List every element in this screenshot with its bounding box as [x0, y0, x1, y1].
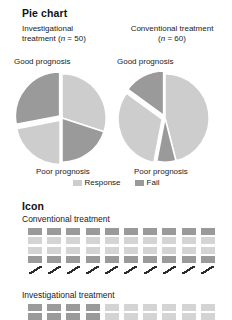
- pie-right-title-line1: Conventional treatment: [131, 24, 214, 33]
- icon-cell-light: [201, 304, 215, 311]
- icon-group-label-conventional: Conventional treatment: [22, 214, 110, 224]
- icon-cell-light: [162, 237, 176, 244]
- icon-cell-slash-icon: [66, 266, 80, 275]
- icon-cell-dark: [28, 304, 42, 311]
- pie-left-title-suffix: = 50): [65, 34, 86, 43]
- pie-right-title-suffix: = 60): [165, 34, 186, 43]
- icon-cell-dark: [105, 228, 119, 235]
- right-good-prognosis-label: Good prognosis: [117, 57, 173, 66]
- icon-cell-slash-icon: [201, 266, 215, 275]
- icon-grid-conventional: [28, 228, 215, 275]
- icon-cell-light: [66, 247, 80, 254]
- legend-label-fail: Fail: [147, 178, 160, 187]
- pie-left-title-prefix: treatment (: [22, 34, 61, 43]
- icon-cell-dark: [182, 228, 196, 235]
- icon-grid-investigational: [28, 304, 215, 320]
- icon-cell-light: [28, 237, 42, 244]
- icon-cell-slash-icon: [143, 266, 157, 275]
- icon-cell-dark: [182, 256, 196, 263]
- icon-cell-light: [28, 247, 42, 254]
- legend-item-fail: Fail: [135, 178, 160, 187]
- pie-right-title: Conventional treatment (n = 60): [120, 24, 224, 44]
- pie-left-title-line1: Investigational: [22, 24, 73, 33]
- icon-cell-slash-icon: [182, 266, 196, 275]
- icon-cell-dark: [86, 313, 100, 320]
- icon-cell-dark: [47, 228, 61, 235]
- icon-cell-light: [201, 247, 215, 254]
- icon-cell-dark: [66, 256, 80, 263]
- icon-section-heading: Icon: [22, 200, 44, 212]
- legend-label-response: Response: [85, 178, 121, 187]
- icon-cell-light: [47, 247, 61, 254]
- icon-cell-light: [143, 237, 157, 244]
- icon-group-label-investigational: Investigational treatment: [22, 290, 115, 300]
- legend-swatch-response: [73, 180, 82, 186]
- icon-cell-dark: [66, 228, 80, 235]
- icon-cell-dark: [28, 228, 42, 235]
- icon-cell-light: [124, 247, 138, 254]
- icon-cell-light: [162, 304, 176, 311]
- icon-cell-slash-icon: [86, 266, 100, 275]
- icon-cell-light: [182, 304, 196, 311]
- icon-cell-dark: [124, 228, 138, 235]
- icon-cell-dark: [47, 304, 61, 311]
- left-poor-prognosis-label: Poor prognosis: [36, 167, 90, 176]
- icon-cell-light: [143, 304, 157, 311]
- icon-cell-light: [124, 304, 138, 311]
- icon-cell-slash-icon: [47, 266, 61, 275]
- icon-cell-light: [86, 237, 100, 244]
- icon-cell-dark: [47, 256, 61, 263]
- icon-cell-slash-icon: [162, 266, 176, 275]
- icon-cell-dark: [201, 256, 215, 263]
- pie-section-heading: Pie chart: [22, 7, 67, 19]
- icon-cell-light: [47, 237, 61, 244]
- pie-chart-section: Pie chart Investigational treatment (n =…: [0, 0, 232, 192]
- icon-cell-dark: [28, 256, 42, 263]
- pie-slice: [17, 120, 60, 164]
- icon-cell-light: [182, 313, 196, 320]
- icon-cell-slash-icon: [124, 266, 138, 275]
- icon-cell-light: [143, 247, 157, 254]
- icon-cell-light: [162, 313, 176, 320]
- pie-left-title-line2: treatment (n = 50): [22, 34, 110, 44]
- icon-cell-light: [182, 247, 196, 254]
- icon-cell-dark: [143, 256, 157, 263]
- pie-svg-investigational: [13, 70, 111, 166]
- icon-cell-light: [201, 313, 215, 320]
- right-poor-prognosis-label: Poor prognosis: [134, 167, 188, 176]
- icon-cell-dark: [162, 256, 176, 263]
- icon-cell-dark: [105, 256, 119, 263]
- legend-item-response: Response: [73, 178, 121, 187]
- icon-cell-dark: [124, 256, 138, 263]
- icon-cell-dark: [86, 256, 100, 263]
- icon-cell-light: [105, 313, 119, 320]
- icon-cell-light: [105, 304, 119, 311]
- pie-left-title: Investigational treatment (n = 50): [22, 24, 110, 44]
- icon-section: Icon Conventional treatment Investigatio…: [0, 192, 232, 319]
- icon-cell-slash-icon: [105, 266, 119, 275]
- legend-swatch-fail: [135, 180, 144, 186]
- icon-cell-dark: [86, 228, 100, 235]
- icon-cell-dark: [66, 304, 80, 311]
- icon-cell-dark: [143, 228, 157, 235]
- icon-cell-light: [105, 247, 119, 254]
- pie-legend: Response Fail: [0, 178, 232, 187]
- icon-cell-dark: [47, 313, 61, 320]
- icon-cell-light: [124, 237, 138, 244]
- icon-cell-dark: [86, 304, 100, 311]
- icon-cell-light: [162, 247, 176, 254]
- pie-chart-investigational: [13, 70, 111, 166]
- icon-cell-light: [105, 237, 119, 244]
- icon-cell-dark: [28, 313, 42, 320]
- icon-cell-light: [201, 237, 215, 244]
- pie-slice: [15, 72, 59, 124]
- icon-cell-light: [143, 313, 157, 320]
- icon-cell-dark: [66, 313, 80, 320]
- icon-cell-light: [124, 313, 138, 320]
- pie-svg-conventional: [116, 70, 214, 166]
- pie-chart-conventional: [116, 70, 214, 166]
- icon-cell-dark: [162, 228, 176, 235]
- icon-cell-light: [66, 237, 80, 244]
- icon-cell-dark: [201, 228, 215, 235]
- pie-right-title-line2: (n = 60): [120, 34, 224, 44]
